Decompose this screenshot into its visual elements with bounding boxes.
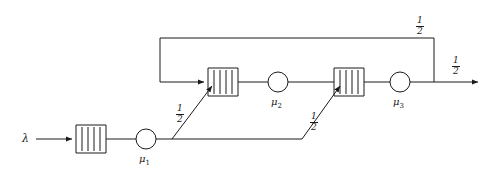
server-label-mu1: μ1 <box>139 154 150 167</box>
queue-box-2 <box>208 68 238 96</box>
probability-branch-to-station3-denominator: 2 <box>310 123 318 132</box>
probability-feedback-numerator: 1 <box>416 16 424 25</box>
server-circle-1 <box>136 129 156 149</box>
queue-box-1 <box>76 125 106 153</box>
arrival-label-lambda: λ <box>22 133 29 144</box>
probability-departure-numerator: 1 <box>452 56 460 65</box>
probability-branch-to-station3: 1 2 <box>310 112 318 133</box>
probability-departure-split: 1 2 <box>452 56 460 77</box>
server-circle-2 <box>268 72 288 92</box>
probability-branch-to-station2-numerator: 1 <box>176 104 184 113</box>
server-label-mu2-index: 2 <box>278 102 282 110</box>
probability-departure-denominator: 2 <box>452 67 460 76</box>
probability-branch-to-station2: 1 2 <box>176 104 184 125</box>
server-circle-3 <box>390 72 410 92</box>
queue-box-3 <box>334 68 364 96</box>
server-label-mu2: μ2 <box>271 97 282 110</box>
server-label-mu3: μ3 <box>393 97 404 110</box>
probability-branch-to-station3-numerator: 1 <box>310 112 318 121</box>
server-label-mu3-index: 3 <box>400 102 404 110</box>
probability-feedback-to-station2: 1 2 <box>416 16 424 37</box>
queueing-network-diagram: λ μ1 μ2 μ3 1 2 1 2 1 2 1 2 <box>0 0 496 179</box>
probability-branch-to-station2-denominator: 2 <box>176 115 184 124</box>
server-label-mu1-index: 1 <box>146 159 150 167</box>
probability-feedback-denominator: 2 <box>416 27 424 36</box>
